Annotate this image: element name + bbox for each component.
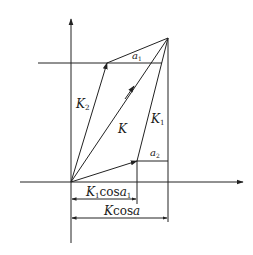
label-k: K bbox=[118, 123, 127, 135]
label-a1: a1 bbox=[132, 51, 142, 62]
vector-diagram: K2 K K1 a1 a2 K1cosa1 Kcosa bbox=[0, 0, 253, 255]
label-k2: K2 bbox=[76, 98, 90, 111]
vector-k1-base bbox=[71, 161, 137, 182]
label-kcos-a: Kcosa bbox=[104, 205, 140, 217]
label-a2: a2 bbox=[150, 148, 160, 159]
vector-k2 bbox=[71, 63, 107, 182]
vector-k-arrow bbox=[125, 86, 134, 99]
label-k1: K1 bbox=[151, 113, 165, 126]
label-k1cos-a1: K1cosa1 bbox=[86, 186, 131, 199]
